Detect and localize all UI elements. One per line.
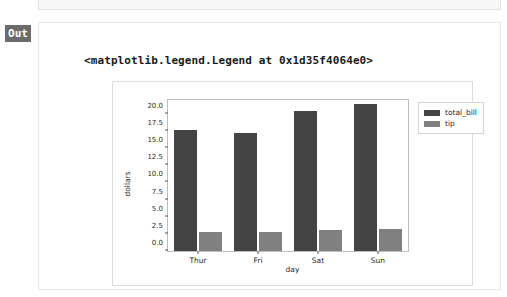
x-tick-mark	[318, 251, 319, 254]
x-tick-label: Thur	[189, 256, 206, 265]
bar-tip-sun	[379, 229, 402, 251]
bar-total_bill-sun	[354, 104, 377, 251]
plot-axes: 0.02.55.07.510.012.515.017.520.0 ThurFri…	[167, 99, 409, 252]
y-axis-label: dollars	[123, 171, 132, 196]
legend-entry-tip: tip	[424, 118, 477, 129]
bar-total_bill-sat	[294, 111, 317, 251]
y-tick-label: 2.5	[152, 222, 163, 230]
legend-swatch-icon	[424, 110, 440, 116]
output-prompt-label: Out	[5, 25, 31, 42]
y-tick-label: 5.0	[152, 205, 163, 213]
x-axis-label: day	[286, 265, 300, 274]
x-tick-label: Sun	[371, 256, 385, 265]
legend-label: tip	[445, 119, 455, 128]
x-tick-mark	[378, 251, 379, 254]
legend-swatch-icon	[424, 121, 440, 127]
legend-entry-total_bill: total_bill	[424, 107, 477, 118]
matplotlib-figure: dollars 0.02.55.07.510.012.515.017.520.0…	[112, 81, 473, 286]
output-repr-text: <matplotlib.legend.Legend at 0x1d35f4064…	[84, 54, 373, 67]
notebook-output-cell: <matplotlib.legend.Legend at 0x1d35f4064…	[38, 22, 501, 290]
previous-cell-strip	[38, 0, 501, 10]
bar-series-container	[168, 100, 408, 251]
x-tick-mark	[258, 251, 259, 254]
bar-tip-thur	[199, 232, 222, 251]
x-tick-mark	[198, 251, 199, 254]
bar-tip-sat	[319, 230, 342, 251]
x-tick-label: Fri	[254, 256, 263, 265]
bar-total_bill-fri	[234, 133, 257, 251]
bar-total_bill-thur	[174, 130, 197, 251]
x-tick-label: Sat	[312, 256, 324, 265]
y-tick-label: 0.0	[152, 239, 163, 247]
y-tick-label: 15.0	[147, 136, 163, 144]
y-tick-label: 17.5	[147, 119, 163, 127]
bar-tip-fri	[259, 232, 282, 251]
y-tick-label: 7.5	[152, 188, 163, 196]
y-tick-label: 12.5	[147, 153, 163, 161]
y-tick-label: 20.0	[147, 102, 163, 110]
legend-label: total_bill	[445, 108, 477, 117]
chart-legend: total_billtip	[418, 102, 484, 134]
y-tick-label: 10.0	[147, 170, 163, 178]
